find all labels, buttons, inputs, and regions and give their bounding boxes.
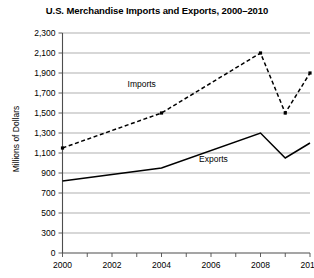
x-tick-label: 2006: [202, 260, 221, 270]
x-axis-ticks: 200020022004200620082010: [53, 253, 314, 270]
series-annotations: ImportsExports: [128, 79, 228, 164]
series-label-exports: Exports: [199, 154, 228, 164]
y-tick-label: 300: [41, 228, 55, 238]
data-point-marker: [259, 51, 262, 54]
data-point-marker: [61, 146, 64, 149]
y-tick-label: 1,500: [34, 108, 56, 118]
series-group: [61, 51, 312, 181]
gridlines: [63, 33, 311, 233]
y-tick-label: 1,100: [34, 148, 56, 158]
y-tick-label: 900: [41, 168, 55, 178]
y-tick-label: 500: [41, 208, 55, 218]
x-tick-label: 2008: [251, 260, 270, 270]
data-point-marker: [284, 111, 287, 114]
data-point-marker: [160, 111, 163, 114]
x-tick-label: 2004: [152, 260, 171, 270]
y-tick-label: 2,300: [34, 28, 56, 38]
y-tick-label: 1,300: [34, 128, 56, 138]
y-tick-label: 1,700: [34, 88, 56, 98]
x-tick-label: 2000: [53, 260, 72, 270]
series-label-imports: Imports: [128, 79, 156, 89]
plot-area: 03005007009001,1001,3001,5001,7001,9002,…: [0, 0, 314, 278]
x-tick-label: 2002: [103, 260, 122, 270]
y-tick-label: 700: [41, 188, 55, 198]
data-point-marker: [308, 71, 311, 74]
series-line-imports: [63, 53, 311, 148]
y-tick-label: 1,900: [34, 68, 56, 78]
y-tick-label: 0: [51, 248, 56, 258]
y-axis-ticks: 03005007009001,1001,3001,5001,7001,9002,…: [34, 28, 62, 258]
chart-container: U.S. Merchandise Imports and Exports, 20…: [0, 0, 314, 278]
series-line-exports: [63, 133, 311, 181]
x-tick-label: 2010: [301, 260, 314, 270]
y-tick-label: 2,100: [34, 48, 56, 58]
